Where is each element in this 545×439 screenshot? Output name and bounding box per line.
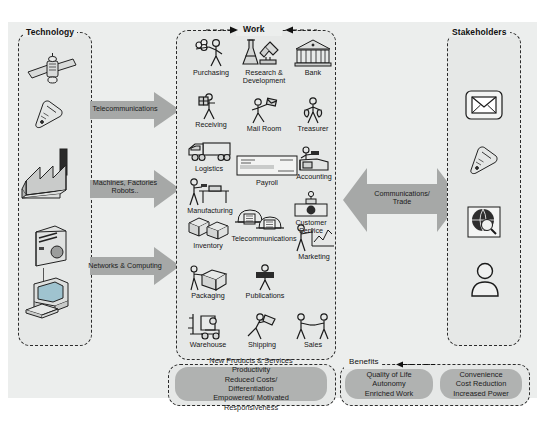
work-label: Packaging (191, 292, 225, 300)
work-label: Warehouse (190, 341, 227, 349)
server-tower-icon (28, 222, 74, 270)
manufacturing-icon (185, 176, 235, 206)
work-label: Receiving (195, 121, 227, 129)
work-label: Purchasing (193, 69, 229, 77)
packaging-icon (186, 263, 230, 291)
arrow-networks-computing: Networks & Computing (90, 247, 180, 285)
benefits-arrow-icon (393, 360, 437, 369)
work-title: Work (240, 24, 268, 34)
work-item-receiving: Receiving (186, 92, 236, 129)
telephone-icon (231, 206, 297, 234)
work-item-payroll: Payroll (236, 154, 298, 187)
work-item-shipping: Shipping (236, 312, 288, 349)
work-item-treasurer: Treasurer (292, 96, 334, 133)
receiving-icon (193, 92, 229, 120)
accounting-icon (294, 146, 334, 172)
technology-title: Technology (23, 27, 77, 37)
inventory-boxes-icon (183, 213, 233, 241)
diagram-canvas: Technology (0, 0, 545, 439)
arrow-label-telecommunications: Telecommunications (84, 105, 166, 113)
work-label: Marketing (298, 253, 330, 261)
sales-handshake-icon (291, 312, 335, 340)
desktop-computer-icon (22, 268, 80, 320)
arrow-label-communications-trade: Communications/ Trade (343, 190, 461, 207)
work-item-logistics: Logistics (184, 140, 234, 173)
work-item-publications: Publications (238, 263, 292, 300)
work-label: Publications (246, 292, 285, 300)
stakeholders-group (447, 32, 521, 346)
bank-icon (293, 38, 333, 68)
work-item-telecommunications: Telecommunications (227, 206, 301, 243)
work-arrow-in-right-icon (281, 25, 317, 35)
work-item-bank: Bank (292, 38, 334, 77)
benefits-box-work: New Products & Services Productivity Red… (175, 367, 327, 401)
work-label: Telecommunications (231, 235, 296, 243)
work-item-warehouse: Warehouse (182, 310, 234, 349)
work-item-marketing: Marketing (292, 222, 336, 261)
work-label: Inventory (193, 242, 223, 250)
stakeholders-title: Stakeholders (449, 27, 510, 37)
work-label: Research & Development (243, 69, 285, 85)
work-item-research-development: Research & Development (236, 37, 292, 85)
arrow-label-networks-computing: Networks & Computing (84, 262, 166, 270)
work-item-packaging: Packaging (182, 263, 234, 300)
factory-icon (20, 145, 86, 200)
marketing-chart-icon (292, 222, 336, 252)
forklift-icon (185, 310, 231, 340)
work-label: Accounting (296, 173, 332, 181)
work-label: Payroll (256, 179, 278, 187)
globe-browser-icon (466, 205, 502, 239)
work-item-accounting: Accounting (292, 146, 336, 181)
arrow-communications-trade: Communications/ Trade (343, 168, 461, 232)
benefits-box-quality: Quality of Life Autonomy Enriched Work (345, 369, 433, 399)
work-arrow-in-left-icon (206, 25, 240, 35)
treasurer-icon (297, 96, 329, 124)
benefits-box-stakeholders: Convenience Cost Reduction Increased Pow… (440, 369, 522, 399)
publications-icon (247, 263, 283, 291)
work-item-mail-room: Mail Room (238, 96, 290, 133)
work-label: Treasurer (298, 125, 329, 133)
work-label: Mail Room (247, 125, 281, 133)
arrow-machines-factories-robots: Machines, Factories Robots.. (90, 170, 180, 208)
arrow-label-machines-factories-robots: Machines, Factories Robots.. (85, 179, 165, 196)
work-label: Sales (304, 341, 322, 349)
person-icon (468, 262, 502, 298)
mail-room-icon (244, 96, 284, 124)
arrow-telecommunications: Telecommunications (90, 92, 180, 128)
payroll-cheque-icon (236, 154, 298, 178)
work-label: Bank (305, 69, 321, 77)
logistics-truck-icon (186, 140, 232, 164)
satellite-icon (24, 52, 80, 94)
work-label: Logistics (195, 165, 223, 173)
work-item-sales: Sales (290, 312, 336, 349)
work-item-purchasing: Purchasing (184, 38, 238, 77)
purchasing-icon (191, 38, 231, 68)
mobile-phone-icon (465, 144, 505, 178)
envelope-icon (464, 88, 504, 122)
shipping-icon (243, 312, 281, 340)
mobile-phone-icon (30, 98, 70, 132)
work-label: Shipping (248, 341, 276, 349)
benefits-title: Benefits (346, 357, 382, 366)
research-development-icon (240, 37, 288, 68)
